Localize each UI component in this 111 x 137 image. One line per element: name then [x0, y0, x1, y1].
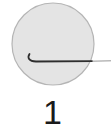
circle-with-hook-icon [0, 0, 111, 90]
figure-number: 1 [43, 93, 62, 131]
gray-circle [12, 3, 94, 85]
diagram-figure [0, 0, 111, 90]
figure-number-label: 1 [0, 92, 111, 132]
